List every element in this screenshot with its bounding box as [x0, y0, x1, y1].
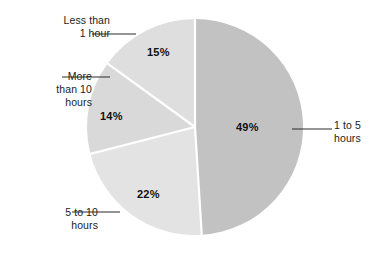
- slice-value-more-than-10-hours: 14%: [100, 110, 123, 122]
- slice-label-1-to-5-hours: 1 to 5 hours: [334, 119, 388, 145]
- slice-label-5-to-10-hours: 5 to 10 hours: [12, 206, 98, 232]
- slice-value-less-than-1-hour: 15%: [147, 46, 170, 58]
- slice-value-1-to-5-hours: 49%: [236, 121, 259, 133]
- slice-value-5-to-10-hours: 22%: [137, 188, 160, 200]
- pie-chart: Less than 1 hour More than 10 hours 5 to…: [0, 0, 389, 263]
- slice-label-more-than-10-hours: More than 10 hours: [10, 70, 92, 109]
- slice-label-less-than-1-hour: Less than 1 hour: [18, 14, 110, 40]
